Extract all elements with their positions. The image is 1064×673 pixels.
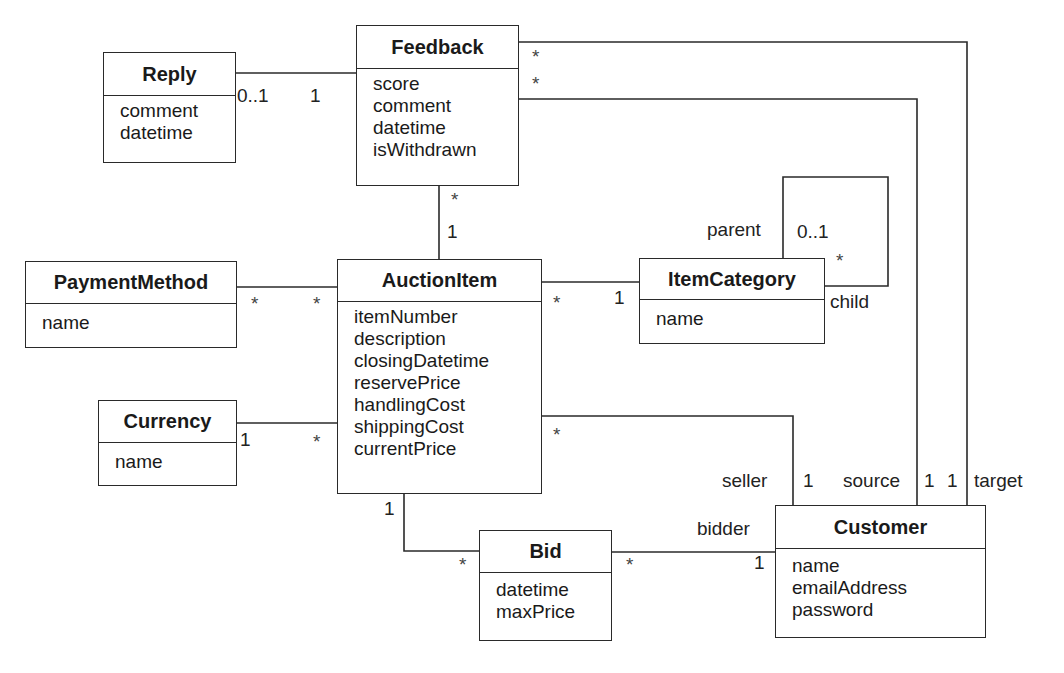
assoc-auction-seller [541, 416, 793, 505]
role-label: bidder [697, 519, 750, 539]
attribute: description [354, 328, 541, 350]
class-name: AuctionItem [338, 260, 541, 302]
role-label: seller [722, 471, 767, 491]
class-currency: Currency name [98, 400, 237, 486]
assoc-auction-bid [404, 493, 479, 551]
multiplicity-label: * [313, 294, 320, 314]
class-item-category: ItemCategory name [639, 258, 825, 344]
class-attributes: comment datetime [104, 96, 235, 144]
class-name: Currency [99, 401, 236, 443]
class-attributes: name emailAddress password [776, 549, 985, 621]
attribute: handlingCost [354, 394, 541, 416]
multiplicity-label: 1 [947, 471, 958, 491]
multiplicity-label: * [251, 294, 258, 314]
role-label: target [974, 471, 1023, 491]
class-bid: Bid datetime maxPrice [479, 530, 612, 641]
multiplicity-label: * [836, 251, 843, 271]
attribute: datetime [373, 117, 518, 139]
attribute: datetime [496, 579, 611, 601]
attribute: itemNumber [354, 306, 541, 328]
multiplicity-label: * [532, 47, 539, 67]
role-label: source [843, 471, 900, 491]
class-auction-item: AuctionItem itemNumber description closi… [337, 259, 542, 494]
multiplicity-label: 1 [924, 471, 935, 491]
attribute: closingDatetime [354, 350, 541, 372]
class-name: Customer [776, 506, 985, 549]
multiplicity-label: * [532, 74, 539, 94]
multiplicity-label: 0..1 [237, 86, 269, 106]
class-attributes: itemNumber description closingDatetime r… [338, 302, 541, 460]
class-name: Feedback [357, 26, 518, 69]
attribute: name [42, 312, 236, 334]
class-name: PaymentMethod [26, 262, 236, 304]
attribute: isWithdrawn [373, 139, 518, 161]
attribute: name [656, 308, 824, 330]
attribute: password [792, 599, 985, 621]
attribute: datetime [120, 122, 235, 144]
attribute: maxPrice [496, 601, 611, 623]
role-label: parent [707, 220, 761, 240]
class-feedback: Feedback score comment datetime isWithdr… [356, 25, 519, 186]
attribute: name [792, 555, 985, 577]
multiplicity-label: 1 [447, 222, 458, 242]
multiplicity-label: 1 [310, 86, 321, 106]
multiplicity-label: 1 [754, 553, 765, 573]
multiplicity-label: * [553, 293, 560, 313]
class-reply: Reply comment datetime [103, 52, 236, 163]
class-name: ItemCategory [640, 259, 824, 300]
attribute: shippingCost [354, 416, 541, 438]
attribute: currentPrice [354, 438, 541, 460]
class-customer: Customer name emailAddress password [775, 505, 986, 638]
class-name: Bid [480, 531, 611, 573]
multiplicity-label: * [553, 425, 560, 445]
multiplicity-label: * [459, 555, 466, 575]
multiplicity-label: 1 [240, 430, 251, 450]
class-attributes: name [26, 304, 236, 334]
role-label: child [830, 292, 869, 312]
attribute: emailAddress [792, 577, 985, 599]
multiplicity-label: * [626, 555, 633, 575]
attribute: comment [373, 95, 518, 117]
class-payment-method: PaymentMethod name [25, 261, 237, 348]
class-name: Reply [104, 53, 235, 96]
multiplicity-label: * [451, 190, 458, 210]
attribute: comment [120, 100, 235, 122]
class-attributes: score comment datetime isWithdrawn [357, 69, 518, 161]
attribute: score [373, 73, 518, 95]
multiplicity-label: 1 [614, 288, 625, 308]
multiplicity-label: 1 [384, 499, 395, 519]
attribute: name [115, 451, 236, 473]
multiplicity-label: 0..1 [797, 222, 829, 242]
class-attributes: name [99, 443, 236, 473]
multiplicity-label: * [313, 432, 320, 452]
attribute: reservePrice [354, 372, 541, 394]
class-attributes: name [640, 300, 824, 330]
multiplicity-label: 1 [803, 471, 814, 491]
class-attributes: datetime maxPrice [480, 573, 611, 623]
